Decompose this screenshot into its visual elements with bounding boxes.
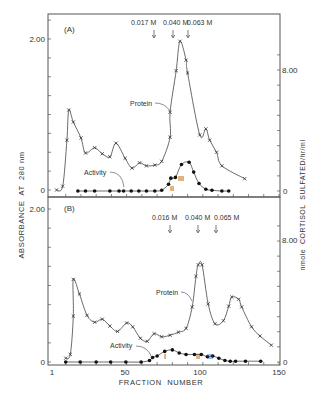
filled-circle-marker-icon xyxy=(227,189,231,193)
x-tick-label: 100 xyxy=(193,368,207,377)
panel-b-protein-pointer xyxy=(181,292,192,301)
gradient-label: 0.040 M xyxy=(163,19,188,26)
x-marker-icon xyxy=(101,152,104,155)
panel-b-protein-curve xyxy=(66,261,272,358)
x-marker-icon xyxy=(204,127,207,130)
filled-circle-marker-icon xyxy=(210,188,214,192)
filled-circle-marker-icon xyxy=(197,182,201,186)
peak-label: III xyxy=(178,175,184,182)
panel-a-left-tick-top: 2.00 xyxy=(29,35,45,44)
x-tick-label: 1 xyxy=(50,368,55,377)
filled-circle-marker-icon xyxy=(94,360,98,364)
x-marker-icon xyxy=(85,314,88,317)
filled-circle-marker-icon xyxy=(145,189,149,193)
panel-b-right-tick-top: 8.00 xyxy=(282,236,298,245)
x-marker-icon xyxy=(258,334,261,337)
gradient-label: 0.065 M xyxy=(214,214,239,221)
x-marker-icon xyxy=(243,177,246,180)
filled-circle-marker-icon xyxy=(148,359,152,363)
panel-a-activity-pointer xyxy=(110,172,124,187)
x-marker-icon xyxy=(124,157,127,160)
filled-circle-marker-icon xyxy=(153,189,157,193)
filled-circle-marker-icon xyxy=(228,359,232,363)
x-marker-icon xyxy=(222,319,225,322)
panel-b-frame xyxy=(48,197,280,365)
panel-b-left-tick-zero: 0 xyxy=(41,358,46,367)
x-marker-icon xyxy=(250,325,253,328)
gradient-label: 0.017 M xyxy=(131,19,156,26)
x-marker-icon xyxy=(208,139,211,142)
panel-b-activity-pointer xyxy=(136,346,152,358)
chromatography-figure: (A) 2.00 0 8.00 0 0.017 M0.040 M0.063 M … xyxy=(0,0,323,397)
panel-b-right-tick-zero: 0 xyxy=(283,358,288,367)
x-marker-icon xyxy=(213,322,216,325)
panel-a-protein-label: Protein xyxy=(130,100,152,107)
filled-circle-marker-icon xyxy=(204,187,208,191)
filled-circle-marker-icon xyxy=(217,356,221,360)
filled-circle-marker-icon xyxy=(129,189,133,193)
panel-b-ticks xyxy=(48,209,280,365)
filled-circle-marker-icon xyxy=(117,189,121,193)
filled-circle-marker-icon xyxy=(259,359,263,363)
panel-a-left-tick-zero: 0 xyxy=(41,186,46,195)
panel-a: (A) 2.00 0 8.00 0 0.017 M0.040 M0.063 M … xyxy=(29,14,298,197)
panel-b-activity-label: Activity xyxy=(110,342,133,350)
x-marker-icon xyxy=(197,263,200,266)
panel-b-label: (B) xyxy=(64,204,75,213)
panel-b-gradient-markers: 0.016 M0.040 M0.065 M xyxy=(152,214,239,233)
panel-a-right-tick-zero: 0 xyxy=(283,187,288,196)
x-marker-icon xyxy=(108,155,111,158)
y-axis-label-right: nmole CORTISOL SULFATED/hr/ml xyxy=(299,140,306,271)
panel-a-protein-pointer xyxy=(155,103,170,111)
filled-circle-marker-icon xyxy=(122,189,126,193)
filled-circle-marker-icon xyxy=(200,353,204,357)
filled-circle-marker-icon xyxy=(64,360,68,364)
x-tick-label: 150 xyxy=(272,368,286,377)
panel-a-gradient-markers: 0.017 M0.040 M0.063 M xyxy=(131,19,212,38)
y-axis-label-left: ABSORBANCE AT 280 nm xyxy=(17,151,26,258)
panel-a-ticks xyxy=(48,20,280,197)
x-marker-icon xyxy=(184,327,187,330)
filled-circle-marker-icon xyxy=(234,359,238,363)
filled-circle-marker-icon xyxy=(78,360,82,364)
gradient-label: 0.063 M xyxy=(187,19,212,26)
filled-circle-marker-icon xyxy=(108,189,112,193)
peak-label: I xyxy=(164,353,166,360)
x-marker-icon xyxy=(237,298,240,301)
filled-circle-marker-icon xyxy=(174,176,178,180)
x-marker-icon xyxy=(114,142,117,145)
filled-circle-marker-icon xyxy=(184,353,188,357)
filled-circle-marker-icon xyxy=(171,348,175,352)
peak-label: II xyxy=(170,185,174,192)
filled-circle-marker-icon xyxy=(187,160,191,164)
filled-circle-marker-icon xyxy=(223,359,227,363)
filled-circle-marker-icon xyxy=(93,189,97,193)
x-marker-icon xyxy=(131,325,134,328)
filled-circle-marker-icon xyxy=(139,360,143,364)
panel-a-right-tick-top: 8.00 xyxy=(282,66,298,75)
gradient-label: 0.040 M xyxy=(185,214,210,221)
filled-circle-marker-icon xyxy=(76,189,80,193)
gradient-label: 0.016 M xyxy=(152,214,177,221)
x-marker-icon xyxy=(240,305,243,308)
filled-circle-marker-icon xyxy=(137,189,141,193)
x-marker-icon xyxy=(160,160,163,163)
filled-circle-marker-icon xyxy=(220,189,224,193)
filled-circle-marker-icon xyxy=(155,354,159,358)
filled-circle-marker-icon xyxy=(84,189,88,193)
peak-label: III xyxy=(207,353,213,360)
x-tick-label: 50 xyxy=(121,368,130,377)
filled-circle-marker-icon xyxy=(177,351,181,355)
panel-b-protein-points xyxy=(64,263,273,360)
panel-b-left-tick-top: 2.00 xyxy=(29,205,45,214)
x-tick-labels: 150100150 xyxy=(50,368,286,377)
filled-circle-marker-icon xyxy=(192,170,196,174)
filled-circle-marker-icon xyxy=(109,360,113,364)
peak-label: II xyxy=(196,353,200,360)
x-marker-icon xyxy=(220,164,223,167)
filled-circle-marker-icon xyxy=(244,359,248,363)
panel-b-protein-label: Protein xyxy=(156,289,178,296)
x-marker-icon xyxy=(270,344,273,347)
x-marker-icon xyxy=(139,337,142,340)
panel-a-frame xyxy=(48,14,280,197)
